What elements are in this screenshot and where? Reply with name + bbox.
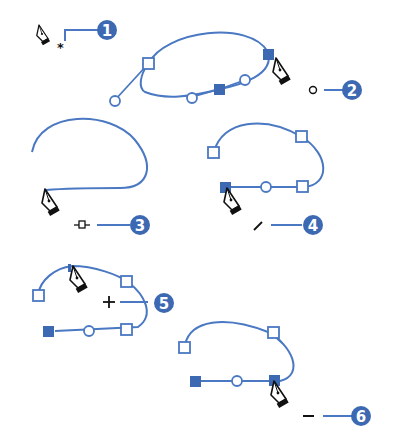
add-anchor-plus-icon bbox=[103, 296, 115, 308]
callout-5-group: 5 bbox=[33, 264, 174, 337]
callout-3-group: 3 bbox=[32, 119, 150, 235]
anchor-point bbox=[33, 290, 44, 301]
direction-handle bbox=[240, 75, 250, 85]
anchor-point bbox=[297, 181, 308, 192]
callout-number: 5 bbox=[159, 295, 169, 313]
start-anchor-point bbox=[263, 49, 274, 60]
anchor-point bbox=[121, 324, 132, 335]
direction-handle bbox=[187, 93, 197, 103]
anchor-point bbox=[296, 131, 307, 142]
callout-number: 2 bbox=[347, 82, 357, 100]
callout-number: 3 bbox=[135, 217, 145, 235]
callout-1-group: * 1 bbox=[37, 20, 117, 55]
callout-number: 1 bbox=[102, 22, 112, 40]
pen-cursor-icon bbox=[224, 188, 242, 215]
anchor-point bbox=[121, 276, 132, 287]
pen-cursor-icon bbox=[273, 58, 291, 85]
continue-path-slash-icon bbox=[254, 222, 262, 230]
direction-handle bbox=[261, 182, 271, 192]
anchor-point bbox=[179, 342, 190, 353]
pen-cursor-icon: * bbox=[37, 25, 64, 55]
end-anchor-point bbox=[190, 376, 201, 387]
callout-6-group: 6 bbox=[179, 322, 371, 426]
close-path-circle-icon bbox=[310, 87, 317, 94]
pen-cursor-icon bbox=[70, 266, 88, 293]
pen-cursor-icon bbox=[42, 189, 60, 216]
direction-handle bbox=[84, 326, 94, 336]
anchor-point bbox=[143, 58, 154, 69]
leader-line bbox=[65, 30, 100, 41]
anchor-point bbox=[268, 327, 279, 338]
join-path-icon bbox=[74, 221, 90, 228]
end-anchor-point bbox=[43, 326, 54, 337]
callout-4-group: 4 bbox=[208, 124, 323, 235]
selected-anchor-point bbox=[214, 84, 225, 95]
callout-2-group: 2 bbox=[110, 33, 362, 106]
pen-tool-diagram: * 1 2 3 bbox=[0, 0, 400, 439]
anchor-point bbox=[208, 147, 219, 158]
callout-number: 6 bbox=[356, 408, 366, 426]
asterisk-modifier-icon: * bbox=[57, 40, 64, 55]
callout-number: 4 bbox=[308, 217, 318, 235]
direction-handle bbox=[232, 376, 242, 386]
direction-handle bbox=[110, 96, 120, 106]
